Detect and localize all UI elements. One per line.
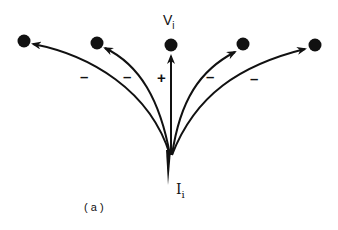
sign-2: –: [123, 68, 131, 85]
bottom-label: Ii: [176, 181, 185, 200]
node-5: [309, 39, 322, 52]
sign-5: –: [250, 70, 258, 87]
sign-1: –: [80, 68, 88, 85]
node-2: [91, 37, 104, 50]
edge-2: [105, 48, 170, 155]
top-label: Vi: [163, 12, 175, 31]
edge-5: [172, 49, 305, 155]
sign-4: –: [206, 68, 214, 85]
node-1: [18, 35, 31, 48]
fan-out-diagram: [0, 0, 338, 230]
edge-1: [33, 44, 170, 155]
node-4: [237, 38, 250, 51]
node-3: [165, 39, 178, 52]
source-stem: [166, 150, 171, 185]
caption: ( a ): [84, 201, 104, 213]
sign-3: +: [157, 69, 166, 86]
